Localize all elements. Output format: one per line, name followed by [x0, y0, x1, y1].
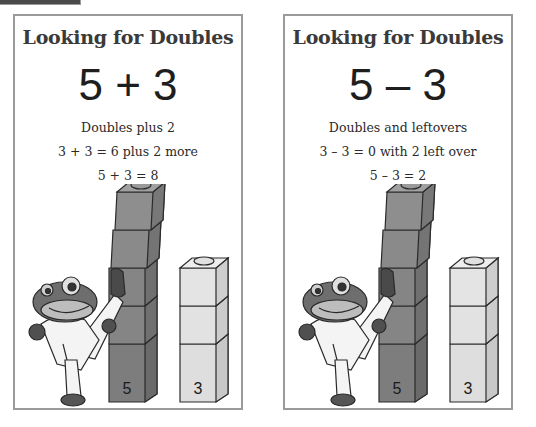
cube-towers-illustration: 5 3 — [15, 184, 241, 410]
cube-towers-illustration: 5 3 — [285, 184, 511, 410]
tower-label-3: 3 — [194, 380, 203, 397]
card-addition: Looking for Doubles 5 + 3 Doubles plus 2… — [13, 14, 243, 410]
short-tower-3: 3 — [180, 257, 228, 402]
tower-label-3: 3 — [464, 380, 473, 397]
strategy-label: Doubles and leftovers — [285, 120, 511, 135]
tower-label-5: 5 — [393, 380, 402, 397]
doubles-step: 3 + 3 = 6 plus 2 more — [15, 144, 241, 159]
doubles-step: 3 – 3 = 0 with 2 left over — [285, 144, 511, 159]
card-title: Looking for Doubles — [15, 26, 241, 48]
tower-label-5: 5 — [123, 380, 132, 397]
top-edge-bar — [0, 0, 81, 5]
result-equation: 5 – 3 = 2 — [285, 168, 511, 183]
expression: 5 – 3 — [285, 60, 511, 110]
result-equation: 5 + 3 = 8 — [15, 168, 241, 183]
expression: 5 + 3 — [15, 60, 241, 110]
short-tower-3: 3 — [450, 257, 498, 402]
card-subtraction: Looking for Doubles 5 – 3 Doubles and le… — [283, 14, 513, 410]
strategy-label: Doubles plus 2 — [15, 120, 241, 135]
card-title: Looking for Doubles — [285, 26, 511, 48]
